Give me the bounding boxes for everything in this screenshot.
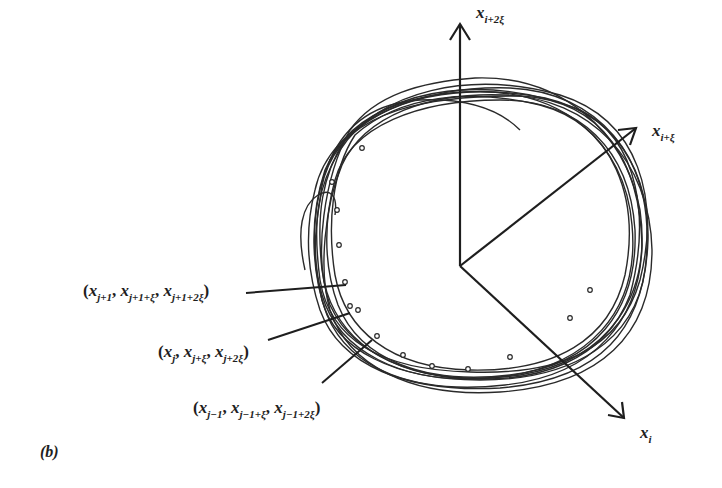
sub: j−1+ξ [239, 408, 265, 420]
leader-line-1 [246, 285, 346, 293]
sub: j+ξ [192, 352, 206, 364]
var: x [184, 342, 193, 361]
axis-sub: i+2ξ [485, 13, 505, 25]
point-label-j: (xj, xj+ξ, xj+2ξ) [158, 343, 249, 364]
var: x [89, 281, 98, 300]
axis-label-vertical: xi+2ξ [476, 4, 504, 25]
axis-diagonal-up [460, 128, 636, 266]
sub: j+1 [97, 291, 112, 303]
attractor-diagram: xi+2ξ xi+ξ xi (xj+1, xj+1+ξ, xj+1+2ξ) (x… [0, 0, 722, 488]
axis-sub: i+ξ [661, 131, 675, 143]
sub: j−1 [207, 408, 222, 420]
axis-label-diagonal-down: xi [640, 424, 652, 445]
coordinate-axes [450, 24, 636, 418]
var: x [274, 398, 283, 417]
axis-var: x [640, 423, 649, 442]
var: x [199, 398, 208, 417]
paren: ) [243, 342, 249, 361]
var: x [215, 342, 224, 361]
leader-lines [246, 285, 372, 383]
paren: ) [315, 398, 321, 417]
point-label-j-minus-1: (xj−1, xj−1+ξ, xj−1+2ξ) [193, 399, 320, 420]
point-label-j-plus-1: (xj+1, xj+1+ξ, xj+1+2ξ) [83, 282, 209, 303]
sub: j [172, 352, 175, 364]
var: x [121, 281, 130, 300]
panel-label: (b) [40, 443, 59, 461]
axis-var: x [476, 3, 485, 22]
var: x [164, 342, 173, 361]
axis-label-diagonal-up: xi+ξ [652, 122, 675, 143]
sub: j+2ξ [224, 352, 244, 364]
sub: j+1+2ξ [172, 291, 204, 303]
sub: j−1+2ξ [283, 408, 315, 420]
trajectory-curves [301, 78, 652, 393]
paren: ) [204, 281, 210, 300]
var: x [164, 281, 173, 300]
axis-sub: i [649, 433, 652, 445]
sub: j+1+ξ [129, 291, 155, 303]
axis-var: x [652, 121, 661, 140]
attractor-drawing [0, 0, 722, 488]
